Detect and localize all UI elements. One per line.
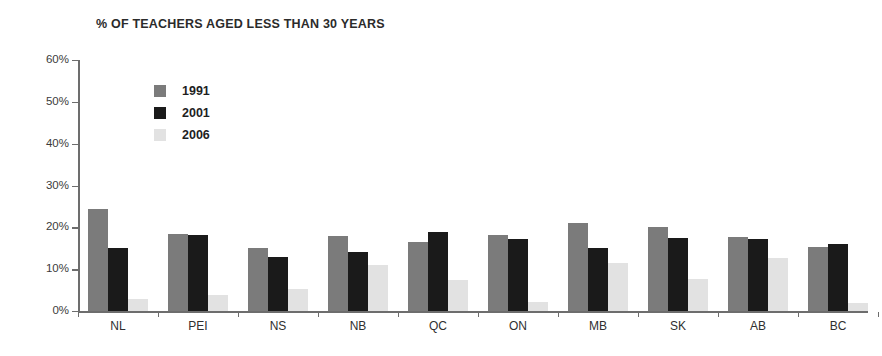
bar	[648, 227, 668, 311]
bar	[248, 248, 268, 311]
legend-item: 2001	[154, 103, 210, 123]
legend-swatch	[154, 129, 166, 141]
x-axis-tick-mark	[638, 312, 639, 317]
x-axis-category-label: MB	[589, 319, 607, 333]
bar	[608, 263, 628, 311]
y-axis-tick-label: 10%	[46, 263, 69, 275]
x-axis-tick-mark	[238, 312, 239, 317]
bar	[208, 295, 228, 311]
bar-group	[808, 60, 868, 311]
bar	[828, 244, 848, 311]
y-axis-tick-mark	[72, 60, 78, 61]
y-axis-tick-mark	[72, 269, 78, 270]
bar	[668, 238, 688, 311]
bar	[268, 257, 288, 311]
y-axis-tick-mark	[72, 227, 78, 228]
bar	[288, 289, 308, 311]
y-axis-tick-label: 30%	[46, 180, 69, 192]
x-axis-category-label: PEI	[188, 319, 207, 333]
legend-label: 1991	[182, 85, 210, 98]
x-axis-category-label: BC	[830, 319, 847, 333]
x-axis-tick-mark	[398, 312, 399, 317]
bar	[768, 258, 788, 311]
x-axis-tick-mark	[158, 312, 159, 317]
bar	[428, 232, 448, 311]
bar-group	[408, 60, 468, 311]
bar	[728, 237, 748, 311]
y-axis-tick-label: 0%	[52, 305, 69, 317]
bar-group	[328, 60, 388, 311]
bar	[588, 248, 608, 311]
bar	[488, 235, 508, 311]
y-axis-line	[78, 60, 80, 312]
y-axis-tick-mark	[72, 144, 78, 145]
y-axis-tick-label: 20%	[46, 222, 69, 234]
x-axis-category-label: NB	[350, 319, 367, 333]
bar	[188, 235, 208, 311]
bar	[508, 239, 528, 311]
x-axis-category-label: ON	[509, 319, 527, 333]
y-axis-tick-label: 40%	[46, 138, 69, 150]
y-axis-tick-mark	[72, 102, 78, 103]
bar-group	[248, 60, 308, 311]
bar-chart-figure: % OF TEACHERS AGED LESS THAN 30 YEARS 60…	[0, 0, 882, 356]
y-axis-tick-label: 60%	[46, 54, 69, 66]
x-axis-tick-mark	[798, 312, 799, 317]
bar	[368, 265, 388, 311]
legend-label: 2006	[182, 129, 210, 142]
legend-item: 2006	[154, 125, 210, 145]
x-axis-category-label: SK	[670, 319, 686, 333]
legend-item: 1991	[154, 81, 210, 101]
x-axis-category-label: NS	[270, 319, 287, 333]
bar-group	[568, 60, 628, 311]
legend-label: 2001	[182, 107, 210, 120]
bar	[568, 223, 588, 311]
y-axis-tick-label: 50%	[46, 96, 69, 108]
bar	[688, 279, 708, 311]
x-axis-category-label: AB	[750, 319, 766, 333]
bar-group	[488, 60, 548, 311]
x-axis-tick-mark	[78, 312, 79, 317]
x-axis-tick-mark	[558, 312, 559, 317]
x-axis-tick-mark	[718, 312, 719, 317]
x-axis-category-label: QC	[429, 319, 447, 333]
chart-title: % OF TEACHERS AGED LESS THAN 30 YEARS	[96, 17, 385, 31]
bar-group	[728, 60, 788, 311]
bar	[168, 234, 188, 311]
bar	[808, 247, 828, 311]
legend-swatch	[154, 107, 166, 119]
x-axis-tick-mark	[878, 312, 879, 317]
y-axis-tick-mark	[72, 186, 78, 187]
bar	[748, 239, 768, 311]
bar	[448, 280, 468, 311]
x-axis-tick-mark	[318, 312, 319, 317]
x-axis-category-label: NL	[110, 319, 125, 333]
bar	[328, 236, 348, 311]
bar-group	[88, 60, 148, 311]
bar	[528, 302, 548, 311]
bar	[128, 299, 148, 311]
bar	[88, 209, 108, 311]
legend-swatch	[154, 85, 166, 97]
bar-group	[648, 60, 708, 311]
bar	[108, 248, 128, 311]
bar	[848, 303, 868, 311]
bar	[348, 252, 368, 311]
chart-legend: 199120012006	[154, 81, 210, 147]
bar	[408, 242, 428, 311]
x-axis-line	[78, 311, 868, 313]
x-axis-tick-mark	[478, 312, 479, 317]
